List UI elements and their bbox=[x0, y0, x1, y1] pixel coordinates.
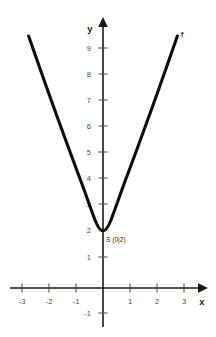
y-tick-label-7: 7 bbox=[87, 96, 91, 105]
y-tick-label-2: 2 bbox=[87, 226, 91, 235]
curve-label-f: f bbox=[181, 31, 184, 38]
coordinate-plot: -3 -2 -1 1 2 3 9 8 7 6 5 4 3 2 1 -1 y x … bbox=[0, 0, 216, 337]
x-tick-label--2: -2 bbox=[46, 297, 53, 306]
y-tick-label-6: 6 bbox=[87, 122, 91, 131]
x-tick-label--3: -3 bbox=[19, 297, 26, 306]
y-axis-label: y bbox=[87, 23, 93, 34]
y-tick-label-8: 8 bbox=[87, 70, 91, 79]
y-tick-label-1: 1 bbox=[87, 253, 91, 262]
vertex-label: S (0|2) bbox=[106, 236, 126, 244]
x-axis-label: x bbox=[199, 296, 205, 307]
y-tick-label-4: 4 bbox=[87, 174, 91, 183]
x-tick-label-3: 3 bbox=[182, 297, 186, 306]
y-axis-arrow-icon bbox=[98, 17, 108, 27]
plot-svg: -3 -2 -1 1 2 3 9 8 7 6 5 4 3 2 1 -1 y x … bbox=[0, 0, 216, 337]
y-tick-label-9: 9 bbox=[87, 44, 91, 53]
x-tick-label-2: 2 bbox=[155, 297, 159, 306]
x-tick-label-1: 1 bbox=[128, 297, 132, 306]
y-tick-label-5: 5 bbox=[87, 148, 91, 157]
x-tick-label--1: -1 bbox=[73, 297, 80, 306]
y-tick-label--1: -1 bbox=[84, 309, 91, 318]
x-axis-arrow-icon bbox=[198, 283, 208, 293]
